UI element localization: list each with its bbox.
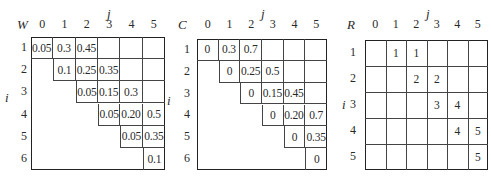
row-header: 5 — [347, 149, 359, 164]
table-cell: 0.05 — [120, 126, 142, 148]
row-header: 3 — [347, 97, 359, 112]
table-cell — [468, 92, 489, 118]
table-cell — [120, 59, 142, 81]
table-title: R — [347, 17, 355, 33]
row-header: 5 — [181, 129, 193, 144]
row-header: 5 — [18, 129, 30, 144]
row-header: 2 — [347, 71, 359, 86]
table-cell: 0.1 — [53, 59, 75, 81]
table-cell: 5 — [468, 144, 489, 170]
table-cell: 5 — [468, 118, 489, 144]
table-cell — [143, 37, 165, 59]
table-cell — [447, 66, 468, 92]
table-cell — [305, 39, 327, 61]
table-cell — [406, 118, 427, 144]
column-header: 4 — [122, 17, 142, 32]
table-c-panel: j C i 01234512345600.30.700.250.500.150.… — [165, 0, 330, 180]
column-header: 3 — [263, 17, 283, 32]
row-axis-label: i — [167, 93, 171, 109]
table-cell — [284, 61, 306, 83]
table-cell — [365, 144, 386, 170]
table-cell: 0.35 — [305, 126, 327, 148]
table-cell: 4 — [447, 118, 468, 144]
column-header: 2 — [77, 17, 97, 32]
column-header: 1 — [220, 17, 240, 32]
table-cell: 0.15 — [98, 81, 120, 103]
column-header: 3 — [427, 17, 447, 32]
column-header: 1 — [386, 17, 406, 32]
table-cell: 0.45 — [76, 37, 98, 59]
row-header: 6 — [181, 151, 193, 166]
table-cell: 0.35 — [143, 126, 165, 148]
table-cell — [305, 83, 327, 105]
column-header: 2 — [406, 17, 426, 32]
row-header: 1 — [181, 42, 193, 57]
table-cell — [98, 37, 120, 59]
table-cell — [386, 66, 407, 92]
table-cell: 0.5 — [262, 61, 284, 83]
table-r-panel: j R i 01234512345112234455 — [330, 0, 491, 180]
column-header: 0 — [198, 17, 218, 32]
table-cell: 0 — [197, 39, 219, 61]
table-cell: 0 — [240, 83, 262, 105]
table-cell: 0.25 — [76, 59, 98, 81]
column-header: 2 — [241, 17, 261, 32]
table-cell: 0.20 — [284, 105, 306, 127]
table-cell: 1 — [386, 40, 407, 66]
column-header: 5 — [306, 17, 326, 32]
table-cell: 0.7 — [240, 39, 262, 61]
row-header: 4 — [18, 107, 30, 122]
column-header: 5 — [144, 17, 164, 32]
table-cell: 0 — [284, 126, 306, 148]
table-cell: 0.3 — [219, 39, 241, 61]
row-header: 6 — [18, 151, 30, 166]
table-cell: 0.25 — [240, 61, 262, 83]
table-cell — [427, 118, 448, 144]
row-header: 4 — [347, 123, 359, 138]
table-cell: 0 — [305, 148, 327, 170]
table-cell — [143, 59, 165, 81]
row-axis-label: i — [342, 97, 346, 113]
table-cell — [305, 61, 327, 83]
table-cell — [406, 144, 427, 170]
table-cell: 1 — [406, 40, 427, 66]
row-header: 3 — [18, 84, 30, 99]
row-header: 2 — [18, 62, 30, 77]
table-cell — [427, 40, 448, 66]
table-cell — [447, 40, 468, 66]
table-cell — [386, 92, 407, 118]
table-cell — [427, 144, 448, 170]
row-axis-label: i — [5, 90, 9, 106]
column-header: 0 — [32, 17, 52, 32]
table-cell: 0.5 — [143, 104, 165, 126]
table-cell: 4 — [447, 92, 468, 118]
table-title: C — [178, 17, 187, 33]
table-cell — [365, 118, 386, 144]
table-cell — [365, 92, 386, 118]
table-cell — [365, 66, 386, 92]
column-header: 3 — [99, 17, 119, 32]
table-cell: 0.1 — [143, 148, 165, 170]
table-cell: 0.05 — [76, 81, 98, 103]
table-cell: 0 — [219, 61, 241, 83]
table-cell — [120, 37, 142, 59]
table-cell: 0.05 — [31, 37, 53, 59]
table-cell: 3 — [427, 92, 448, 118]
table-cell — [365, 40, 386, 66]
table-cell — [386, 118, 407, 144]
table-cell: 0.3 — [53, 37, 75, 59]
table-cell: 0.35 — [98, 59, 120, 81]
row-header: 3 — [181, 86, 193, 101]
table-cell: 0 — [262, 105, 284, 127]
column-header: 4 — [285, 17, 305, 32]
table-cell — [406, 92, 427, 118]
table-cell: 0.05 — [98, 104, 120, 126]
row-header: 1 — [18, 40, 30, 55]
table-cell: 0.15 — [262, 83, 284, 105]
table-w-panel: j W i 0123451234560.050.30.450.10.250.35… — [0, 0, 165, 180]
row-header: 1 — [347, 45, 359, 60]
table-cell: 0.45 — [284, 83, 306, 105]
table-cell: 2 — [427, 66, 448, 92]
table-cell: 0.20 — [120, 104, 142, 126]
column-header: 0 — [365, 17, 385, 32]
